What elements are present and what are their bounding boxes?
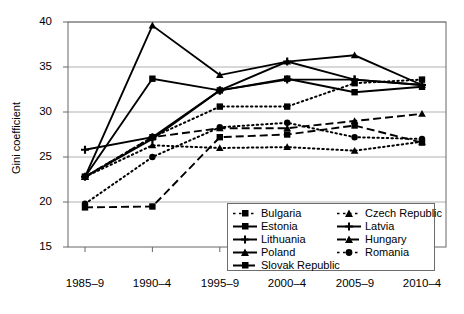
legend-column-right: Czech Republic Latvia Hungary Romania [336,207,442,259]
datapoint-romania-1 [149,154,155,160]
datapoint-estonia-1 [149,76,155,82]
legend-column-left: Bulgaria Estonia Lithuania Poland Slovak… [232,207,340,272]
legend-label-lithuania: Lithuania [261,233,306,246]
legend-item-lithuania[interactable]: Lithuania [232,233,340,246]
datapoint-hungary-5 [418,110,426,117]
legend-item-bulgaria[interactable]: Bulgaria [232,207,340,220]
y-tick-20: 20 [26,195,52,207]
legend-item-czech-republic[interactable]: Czech Republic [336,207,442,220]
legend-item-latvia[interactable]: Latvia [336,220,442,233]
series-line-bulgaria [85,80,422,177]
datapoint-poland-1 [149,22,157,29]
y-tick-25: 25 [26,150,52,162]
x-tick-2005-9: 2005–9 [323,277,387,289]
legend-key-lithuania [232,233,258,246]
y-tick-30: 30 [26,105,52,117]
legend-key-slovak-republic [232,259,258,272]
y-tick-35: 35 [26,60,52,72]
y-tick-15: 15 [26,240,52,252]
series-line-estonia [85,79,422,177]
gini-coefficient-line-chart: Gini coefficient 40 35 30 25 20 15 1985–… [0,0,464,314]
x-tick-1995-9: 1995–9 [188,277,252,289]
x-tick-2010-4: 2010–4 [390,277,454,289]
legend-item-estonia[interactable]: Estonia [232,220,340,233]
legend-label-slovak-republic: Slovak Republic [261,259,340,272]
legend-key-hungary [336,233,362,246]
series-line-hungary [85,114,422,177]
y-axis-label: Gini coefficient [10,78,22,198]
legend-label-romania: Romania [365,246,409,259]
legend-key-poland [232,246,258,259]
datapoint-slovak-republic-2 [217,134,223,140]
legend-label-poland: Poland [261,246,295,259]
legend-key-bulgaria [232,207,258,220]
legend-item-romania[interactable]: Romania [336,246,442,259]
datapoint-romania-2 [217,124,223,130]
x-tick-1990-4: 1990–4 [120,277,184,289]
datapoint-estonia-4 [351,89,357,95]
series-line-poland [85,26,422,177]
legend-key-latvia [336,220,362,233]
legend: Bulgaria Estonia Lithuania Poland Slovak… [227,203,435,271]
legend-item-poland[interactable]: Poland [232,246,340,259]
series-line-lithuania [85,62,422,177]
legend-label-bulgaria: Bulgaria [261,207,301,220]
datapoint-romania-4 [351,134,357,140]
datapoint-latvia-0 [81,146,89,154]
datapoint-bulgaria-3 [284,103,290,109]
datapoint-czech-republic-2 [216,144,224,151]
x-tick-1985-9: 1985–9 [53,277,117,289]
legend-key-czech-republic [336,207,362,220]
x-tick-2000-4: 2000–4 [255,277,319,289]
datapoint-romania-3 [284,120,290,126]
legend-label-czech-republic: Czech Republic [365,207,442,220]
y-tick-40: 40 [26,15,52,27]
legend-label-latvia: Latvia [365,220,394,233]
legend-key-estonia [232,220,258,233]
legend-label-estonia: Estonia [261,220,298,233]
legend-key-romania [336,246,362,259]
series-line-slovak-republic [85,126,422,208]
legend-item-hungary[interactable]: Hungary [336,233,442,246]
legend-label-hungary: Hungary [365,233,407,246]
datapoint-slovak-republic-1 [149,203,155,209]
legend-item-slovak-republic[interactable]: Slovak Republic [232,259,340,272]
datapoint-slovak-republic-5 [419,139,425,145]
datapoint-slovak-republic-0 [82,204,88,210]
datapoint-slovak-republic-4 [351,122,357,128]
datapoint-slovak-republic-3 [284,131,290,137]
datapoint-bulgaria-2 [217,103,223,109]
